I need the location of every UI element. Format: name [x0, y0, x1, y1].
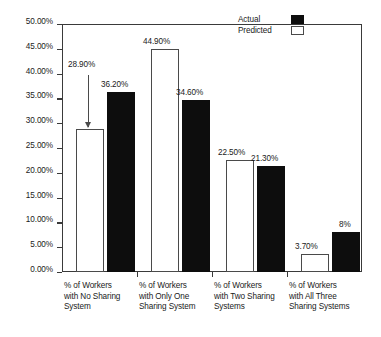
- y-tick-mark: [57, 272, 62, 273]
- x-category-line: % of Workers: [214, 281, 288, 292]
- y-axis: 0.00% 5.00% 10.00% 15.00% 20.00% 25.00% …: [0, 24, 62, 272]
- x-category-line: % of Workers: [64, 281, 138, 292]
- y-tick-label: 20.00%: [26, 167, 53, 175]
- x-category-line: Systems: [214, 302, 288, 313]
- x-category-line: % of Workers: [139, 281, 213, 292]
- y-tick-label: 45.00%: [26, 43, 53, 51]
- x-category-label: % of Workers with All Three Sharing Syst…: [289, 281, 365, 313]
- legend-entry-predicted: Predicted: [238, 25, 312, 36]
- bar-actual: [182, 100, 210, 272]
- bar-value-predicted: 28.90%: [68, 61, 95, 69]
- annotation-arrow-icon: [84, 75, 93, 127]
- x-category-label: % of Workers with No Sharing System: [64, 281, 138, 313]
- legend-label: Predicted: [238, 25, 272, 36]
- x-category-line: with Only One: [139, 292, 213, 303]
- legend-swatch-predicted: [291, 26, 304, 35]
- x-category-line: System: [64, 302, 138, 313]
- bar-actual: [257, 166, 285, 272]
- bar-value-actual: 36.20%: [101, 81, 128, 89]
- bar-value-predicted: 44.90%: [143, 38, 170, 46]
- x-category-line: with No Sharing: [64, 292, 138, 303]
- y-tick-label: 5.00%: [30, 241, 53, 249]
- x-category-label: % of Workers with Only One Sharing Syste…: [139, 281, 213, 313]
- bar-value-actual: 21.30%: [251, 155, 278, 163]
- legend-entry-actual: Actual: [238, 14, 312, 25]
- y-tick-label: 25.00%: [26, 142, 53, 150]
- x-tick-mark: [212, 272, 213, 277]
- y-tick-label: 0.00%: [30, 266, 53, 274]
- bar-value-actual: 8%: [339, 221, 351, 229]
- bar-group: 28.90% 36.20%: [70, 24, 142, 272]
- bar-predicted: [226, 160, 254, 272]
- x-tick-mark: [137, 272, 138, 277]
- y-tick-label: 50.00%: [26, 18, 53, 26]
- x-category-line: Sharing Systems: [289, 302, 365, 313]
- bar-chart: 0.00% 5.00% 10.00% 15.00% 20.00% 25.00% …: [0, 0, 381, 337]
- bar-value-predicted: 22.50%: [218, 149, 245, 157]
- x-category-line: with All Three: [289, 292, 365, 303]
- bar-group: 22.50% 21.30%: [220, 24, 292, 272]
- bar-group: 44.90% 34.60%: [145, 24, 217, 272]
- bar-predicted: [76, 129, 104, 272]
- x-axis-labels: % of Workers with No Sharing System % of…: [62, 281, 362, 331]
- bar-value-actual: 34.60%: [176, 89, 203, 97]
- bar-value-predicted: 3.70%: [295, 243, 318, 251]
- y-tick-label: 15.00%: [26, 192, 53, 200]
- y-tick-label: 40.00%: [26, 68, 53, 76]
- bar-actual: [332, 232, 360, 272]
- legend: Actual Predicted: [238, 14, 312, 36]
- bar-group: 3.70% 8%: [295, 24, 367, 272]
- bar-predicted: [301, 254, 329, 272]
- x-category-line: % of Workers: [289, 281, 365, 292]
- x-category-line: with Two Sharing: [214, 292, 288, 303]
- x-tick-mark: [287, 272, 288, 277]
- bars-layer: 28.90% 36.20% 44.90% 34.60% 22.50% 21.30…: [62, 24, 362, 272]
- bar-predicted: [151, 49, 179, 272]
- x-category-line: Sharing System: [139, 302, 213, 313]
- x-category-label: % of Workers with Two Sharing Systems: [214, 281, 288, 313]
- legend-swatch-actual: [291, 15, 304, 24]
- bar-actual: [107, 92, 135, 272]
- y-tick-label: 30.00%: [26, 117, 53, 125]
- legend-label: Actual: [238, 14, 260, 25]
- y-tick-label: 35.00%: [26, 92, 53, 100]
- y-tick-label: 10.00%: [26, 216, 53, 224]
